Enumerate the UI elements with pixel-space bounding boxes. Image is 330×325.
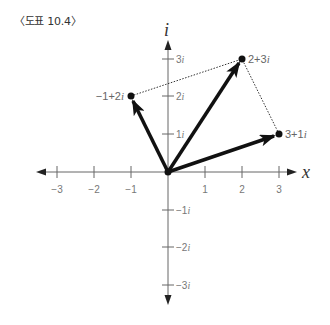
vector-3-plus-1i — [168, 136, 274, 172]
vector-2-plus-3i — [168, 63, 239, 172]
y-tick-label: 3i — [176, 54, 185, 65]
point-label: −1+2i — [96, 90, 124, 102]
x-tick-label: −2 — [88, 184, 100, 195]
y-tick-label: −1i — [176, 205, 190, 216]
point-2-plus-3i — [239, 56, 246, 63]
arrow-right-icon — [287, 169, 297, 176]
point-3-plus-1i — [276, 131, 283, 138]
x-tick-label: 3 — [276, 184, 282, 195]
point-label: 2+3i — [248, 53, 270, 65]
vector-neg1-plus-2i — [133, 101, 168, 172]
dotted-segment — [242, 59, 279, 134]
dotted-segment — [131, 59, 242, 96]
arrow-left-icon — [36, 169, 46, 176]
y-tick-label: 1i — [176, 129, 185, 140]
x-tick-label: 2 — [239, 184, 245, 195]
x-axis-label: x — [301, 162, 310, 182]
x-tick-label: 1 — [202, 184, 208, 195]
y-tick-label: −2i — [176, 242, 190, 253]
point-neg1-plus-2i — [128, 93, 135, 100]
y-tick-label: −3i — [176, 280, 190, 291]
y-axis-label: i — [164, 20, 169, 40]
origin-point — [165, 169, 172, 176]
x-tick-label: −1 — [125, 184, 137, 195]
x-tick-label: −3 — [51, 184, 63, 195]
complex-plane-diagram: −3 −2 −1 1 2 3 x 3i 2i 1i −1i −2i −3i i — [0, 0, 330, 325]
point-label: 3+1i — [285, 128, 307, 140]
arrow-up-icon — [165, 40, 172, 50]
arrow-down-icon — [165, 295, 172, 305]
y-tick-label: 2i — [176, 91, 185, 102]
